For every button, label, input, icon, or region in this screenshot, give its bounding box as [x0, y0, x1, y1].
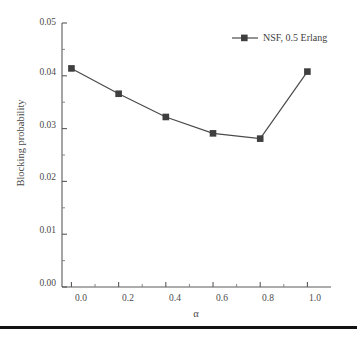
x-tick-label: 0.6: [202, 294, 242, 304]
y-tick-label: 0.05: [22, 18, 56, 28]
x-axis-title: α: [166, 309, 226, 320]
y-tick-label: 0.00: [22, 279, 56, 289]
series-line: [71, 68, 307, 138]
y-tick-label: 0.01: [22, 226, 56, 236]
y-axis-title: Blocking probability: [16, 73, 27, 213]
data-point-marker: [210, 130, 217, 137]
x-tick-label: 0.0: [61, 294, 101, 304]
data-point-marker: [257, 135, 264, 142]
data-series-group: [68, 65, 311, 142]
axis-spines: [62, 23, 331, 287]
bottom-divider-rule: [0, 326, 357, 329]
data-point-marker: [68, 65, 75, 72]
data-point-marker: [115, 90, 122, 97]
y-tick-label: 0.02: [22, 173, 56, 183]
y-tick-label: 0.04: [22, 68, 56, 78]
data-point-marker: [163, 114, 170, 121]
legend-sample-line: [232, 35, 258, 42]
x-tick-label: 0.2: [108, 294, 148, 304]
x-tick-label: 0.8: [248, 294, 288, 304]
figure-container: 0.00 0.01 0.02 0.03 0.04 0.05 0.0 0.2 0.…: [0, 0, 357, 342]
chart-canvas: [0, 0, 357, 342]
x-tick-label: 1.0: [295, 294, 335, 304]
y-tick-label: 0.03: [22, 121, 56, 131]
legend-entry-label: NSF, 0.5 Erlang: [263, 33, 327, 43]
x-tick-label: 0.4: [155, 294, 195, 304]
data-point-marker: [304, 68, 311, 75]
